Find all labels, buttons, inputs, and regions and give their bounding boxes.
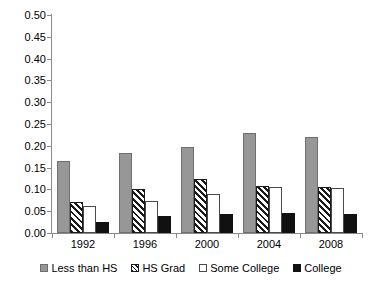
bar [305,137,318,233]
bar-chart: 0.000.050.100.150.200.250.300.350.400.45… [0,0,382,287]
bar [243,133,256,233]
x-tick-mark [300,233,301,238]
bar-group [176,15,238,233]
legend-item: Less than HS [40,262,117,274]
bar [220,214,233,233]
bar [194,179,207,234]
legend-label: Some College [210,262,279,274]
legend-item: HS Grad [131,262,185,274]
y-tick-label: 0.25 [8,119,46,130]
bar [145,201,158,233]
legend-label: College [304,262,341,274]
legend-item: Some College [199,262,279,274]
x-tick-mark [238,233,239,238]
bar [181,147,194,233]
legend-label: Less than HS [51,262,117,274]
x-tick-mark [176,233,177,238]
bar [269,187,282,233]
bar-group [238,15,300,233]
plot-area [52,15,362,233]
y-tick-label: 0.15 [8,162,46,173]
y-tick-label: 0.50 [8,10,46,21]
bar [119,153,132,233]
bar-group [52,15,114,233]
bar [132,189,145,233]
x-tick-label: 2008 [300,238,362,251]
bar [344,214,357,233]
bar [331,188,344,233]
bar [96,222,109,233]
bar [70,202,83,233]
bar [256,186,269,233]
legend-label: HS Grad [142,262,185,274]
x-tick-mark [362,233,363,238]
y-tick-label: 0.10 [8,184,46,195]
bar [282,213,295,233]
legend-swatch-icon [40,264,48,272]
x-tick-mark [114,233,115,238]
bar-group [114,15,176,233]
y-tick-label: 0.30 [8,97,46,108]
x-tick-label: 2004 [238,238,300,251]
bar-group [300,15,362,233]
legend-swatch-icon [199,264,207,272]
x-tick-mark [52,233,53,238]
bar [207,194,220,233]
x-tick-label: 1996 [114,238,176,251]
y-tick-label: 0.00 [8,228,46,239]
bar [318,187,331,233]
y-tick-label: 0.05 [8,206,46,217]
chart-legend: Less than HSHS GradSome CollegeCollege [0,262,382,274]
x-tick-label: 2000 [176,238,238,251]
y-tick-label: 0.40 [8,53,46,64]
x-axis-line [51,233,362,234]
legend-swatch-icon [131,264,139,272]
y-tick-label: 0.45 [8,31,46,42]
y-tick-label: 0.20 [8,140,46,151]
y-tick-label: 0.35 [8,75,46,86]
bar [57,161,70,233]
legend-item: College [293,262,341,274]
bar [83,206,96,233]
x-tick-label: 1992 [52,238,114,251]
bar [158,216,171,233]
legend-swatch-icon [293,264,301,272]
